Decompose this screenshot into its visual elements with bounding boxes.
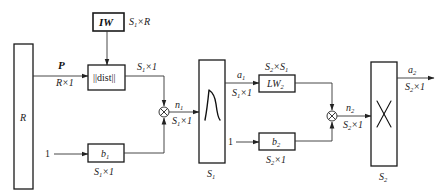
svg-text:S1: S1 xyxy=(207,168,215,180)
product-junction-1: n1 S1×1 xyxy=(159,99,199,127)
svg-text:S2×1: S2×1 xyxy=(405,81,425,93)
svg-text:S1×1: S1×1 xyxy=(94,166,114,178)
svg-text:S2×1: S2×1 xyxy=(266,154,286,166)
svg-text:S1×1: S1×1 xyxy=(172,115,192,127)
radial-transfer-block-s1: S1 xyxy=(199,60,225,180)
network-diagram: R P R×1 IW S1×R ||dist|| S1×1 1 b1 S1×1 … xyxy=(0,0,445,196)
svg-text:a1: a1 xyxy=(237,69,245,81)
bias-block-2: 1 b2 S2×1 xyxy=(228,122,332,166)
svg-text:S2×1: S2×1 xyxy=(343,119,363,131)
svg-text:S2×S1: S2×S1 xyxy=(265,61,288,73)
distance-block: ||dist|| S1×1 xyxy=(88,61,164,106)
layer1-output-a1: a1 S1×1 xyxy=(225,69,259,99)
dist-out-dims: S1×1 xyxy=(137,61,157,73)
linear-transfer-block-s2: S2 xyxy=(371,62,397,183)
svg-text:P: P xyxy=(58,59,65,71)
svg-text:n1: n1 xyxy=(175,99,183,111)
layer-weight-block-lw2: LW2 S2×S1 xyxy=(259,61,332,110)
svg-text:1: 1 xyxy=(228,136,233,147)
svg-text:IW: IW xyxy=(98,16,114,28)
svg-text:S2: S2 xyxy=(379,171,388,183)
iw-dims: S1×R xyxy=(129,16,150,28)
product-junction-2: n2 S2×1 xyxy=(327,102,371,131)
svg-text:R: R xyxy=(19,112,26,123)
bias-block-1: 1 b1 S1×1 xyxy=(45,118,164,178)
input-block-r: R xyxy=(14,44,33,189)
svg-text:n2: n2 xyxy=(346,102,355,114)
layer2-output-a2: a2 S2×1 xyxy=(397,64,434,93)
svg-text:R×1: R×1 xyxy=(55,77,74,88)
svg-text:a2: a2 xyxy=(408,64,417,76)
svg-text:S1×1: S1×1 xyxy=(232,87,252,99)
svg-text:1: 1 xyxy=(45,148,50,159)
input-weight-block-iw: IW S1×R xyxy=(93,13,150,65)
svg-text:||dist||: ||dist|| xyxy=(93,72,115,83)
input-signal-p: P R×1 xyxy=(33,59,88,88)
